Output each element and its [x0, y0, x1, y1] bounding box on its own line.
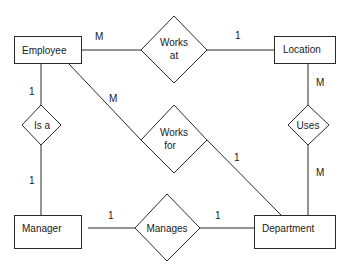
cardinality-employee-works-at: M: [95, 31, 103, 42]
cardinality-location-works-at: 1: [235, 30, 241, 41]
entity-location-label: Location: [283, 44, 321, 55]
relationship-works-for: [141, 105, 207, 173]
cardinality-department-works-for: 1: [234, 152, 240, 163]
cardinality-manager-manages: 1: [108, 210, 114, 221]
cardinality-employee-works-for: M: [109, 93, 117, 104]
cardinality-department-uses: M: [316, 167, 324, 178]
relationship-works-for-label-line2: for: [164, 140, 176, 151]
cardinality-department-manages: 1: [215, 210, 221, 221]
relationship-uses-label: Uses: [297, 120, 320, 131]
relationship-is-a-label: Is a: [34, 120, 51, 131]
er-diagram: Employee Location Manager Department Wor…: [0, 0, 355, 272]
entity-department-label: Department: [262, 223, 314, 234]
connector-works-for-department: [207, 140, 281, 215]
relationship-works-at-label-line1: Works: [160, 37, 188, 48]
connector-employee-works-for: [69, 64, 141, 140]
entity-manager-label: Manager: [22, 223, 62, 234]
relationship-works-for-label-line1: Works: [160, 127, 188, 138]
cardinality-manager-is-a: 1: [29, 175, 35, 186]
entity-employee-label: Employee: [22, 45, 67, 56]
relationship-manages-label: Manages: [146, 223, 187, 234]
relationship-works-at-label-line2: at: [170, 50, 179, 61]
cardinality-employee-is-a: 1: [29, 86, 35, 97]
cardinality-location-uses: M: [316, 77, 324, 88]
